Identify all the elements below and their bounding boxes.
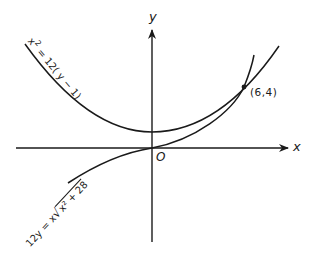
intersection-point	[242, 85, 247, 90]
x-axis-label: x	[293, 139, 301, 154]
origin-label: O	[156, 150, 165, 164]
intersection-label: (6,4)	[250, 86, 277, 98]
y-axis-label: y	[149, 9, 157, 24]
